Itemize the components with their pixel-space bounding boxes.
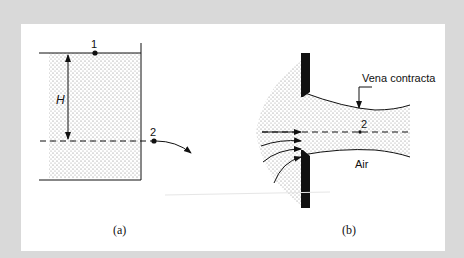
point-2-label: 2 xyxy=(150,126,156,138)
air-label: Air xyxy=(355,158,369,170)
point-1-label: 1 xyxy=(91,38,97,50)
point-2-label-b: 2 xyxy=(361,118,367,130)
orifice-plate-upper xyxy=(301,53,310,97)
jet-liquid-region xyxy=(302,92,410,157)
point-2-marker xyxy=(151,138,156,143)
vena-contracta-label: Vena contracta xyxy=(362,72,436,84)
jet-trajectory-arrow xyxy=(156,141,191,153)
vena-contracta-leader-arrow xyxy=(359,87,372,108)
orifice-diagram: 2 Vena contracta Air (b) xyxy=(256,53,436,237)
upstream-liquid-region xyxy=(256,60,302,206)
caption-b: (b) xyxy=(342,223,356,237)
orifice-plate-lower xyxy=(301,150,310,208)
figure-canvas: H 1 2 (a) 2 Vena co xyxy=(0,0,464,258)
tank-diagram: H 1 2 (a) xyxy=(39,38,191,237)
point-1-marker xyxy=(92,50,97,55)
head-label: H xyxy=(56,93,65,107)
point-2-marker-b xyxy=(358,130,362,134)
caption-a: (a) xyxy=(113,223,126,237)
liquid-fill xyxy=(49,53,140,178)
